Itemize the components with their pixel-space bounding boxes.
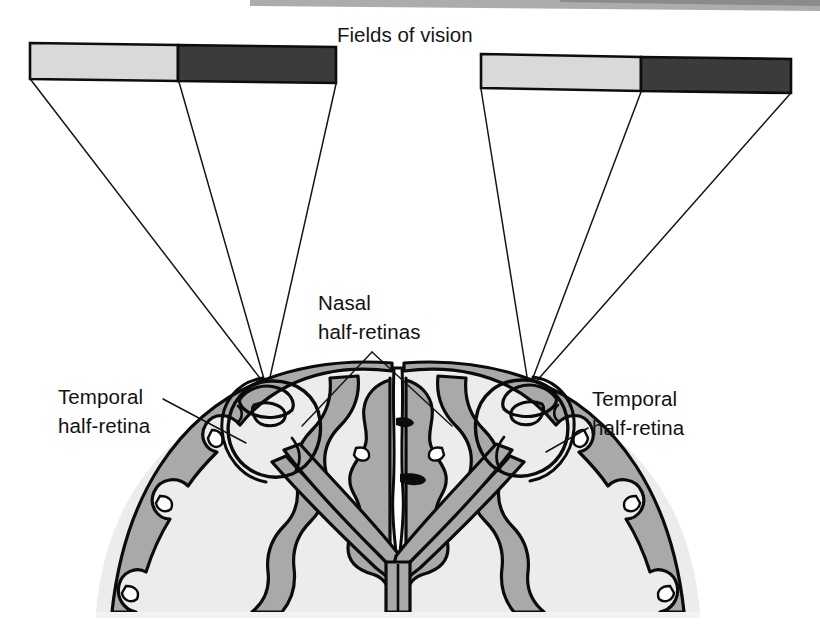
lateral-sulcus-pit-left-2 [156,496,172,511]
lateral-sulcus-pit-right-2 [624,496,640,511]
right-visual-field-bar [481,54,791,93]
figure-page: Fields of vision [0,0,820,636]
midline-sulcus-right [429,447,444,460]
lateral-sulcus-pit-left-1 [208,430,223,447]
page-bottom-shadow [96,612,700,618]
label-temporal-right-line1: Temporal [592,387,677,410]
left-field-light-half [30,43,178,81]
midline-sulcus-left [354,447,369,460]
label-temporal-left-line2: half-retina [58,414,151,437]
lateral-sulcus-pit-right-3 [658,586,674,601]
right-field-light-half [481,54,641,91]
page-title: Fields of vision [337,23,473,46]
label-temporal-right-line2: half-retina [592,416,685,439]
right-field-dark-half [641,57,791,93]
vision-fields-diagram: Fields of vision [0,0,820,636]
label-nasal-line2: half-retinas [318,320,421,343]
lateral-sulcus-pit-left-3 [122,586,138,601]
label-nasal-line1: Nasal [318,291,371,314]
longitudinal-fissure [393,368,404,574]
label-temporal-left-line1: Temporal [58,385,143,408]
left-visual-field-bar [30,43,336,83]
left-field-dark-half [178,45,336,83]
